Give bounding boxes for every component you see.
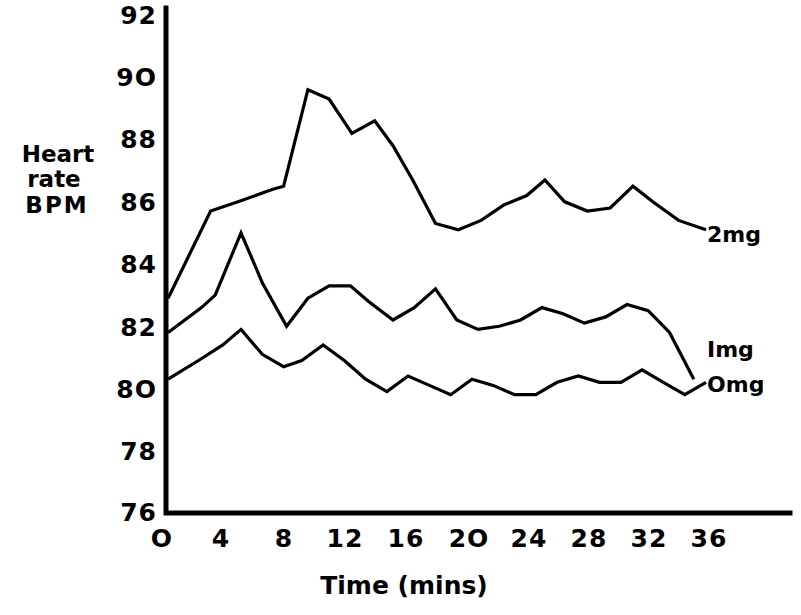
y-axis-title-line-1: Heart — [22, 141, 95, 167]
y-tick-label: 92 — [120, 1, 157, 30]
y-tick-label: 9O — [116, 63, 157, 92]
y-tick-label: 76 — [120, 498, 157, 527]
series-line-0mg — [168, 329, 706, 394]
x-axis-tick-labels: O 4 8 12 16 2O 24 28 32 36 — [151, 524, 728, 553]
x-tick-label: 32 — [631, 524, 668, 553]
y-tick-label: 86 — [120, 188, 157, 217]
x-tick-label: O — [151, 524, 173, 553]
series-line-1mg — [168, 233, 694, 379]
x-axis-title: Time (mins) — [320, 571, 487, 600]
y-tick-label: 8O — [116, 375, 157, 404]
series-label-1mg: Img — [707, 337, 754, 362]
chart-page: 92 9O 88 86 84 82 8O 78 76 O 4 8 12 16 2… — [0, 0, 801, 615]
x-tick-label: 2O — [449, 524, 490, 553]
x-tick-label: 4 — [212, 524, 230, 553]
series-line-2mg — [168, 90, 706, 299]
y-tick-label: 82 — [120, 313, 157, 342]
x-tick-label: 12 — [327, 524, 364, 553]
heart-rate-line-chart: 92 9O 88 86 84 82 8O 78 76 O 4 8 12 16 2… — [0, 0, 801, 615]
x-tick-label: 24 — [511, 524, 548, 553]
y-axis-title: Heart rate BPM — [22, 141, 95, 218]
y-axis-title-line-3: BPM — [25, 192, 88, 218]
y-axis-tick-labels: 92 9O 88 86 84 82 8O 78 76 — [116, 1, 157, 527]
series-label-0mg: Omg — [707, 372, 764, 397]
y-axis-title-line-2: rate — [27, 166, 80, 192]
series-label-2mg: 2mg — [707, 222, 761, 247]
y-tick-label: 84 — [120, 250, 157, 279]
y-tick-label: 88 — [120, 125, 157, 154]
x-tick-label: 36 — [691, 524, 728, 553]
y-tick-label: 78 — [120, 437, 157, 466]
x-tick-label: 16 — [388, 524, 425, 553]
chart-axes — [166, 8, 790, 513]
x-tick-label: 8 — [275, 524, 293, 553]
x-tick-label: 28 — [571, 524, 608, 553]
